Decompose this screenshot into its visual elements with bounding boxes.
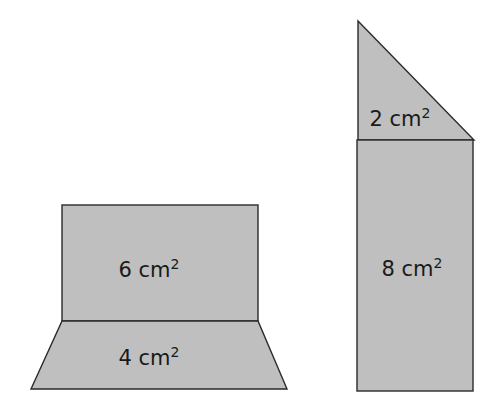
right-rectangle-area-label: 8 cm2 bbox=[382, 255, 443, 281]
area-diagram: 6 cm2 4 cm2 2 cm2 8 cm2 bbox=[0, 0, 489, 417]
right-triangle-area-label: 2 cm2 bbox=[370, 105, 431, 131]
left-trapezoid-area-label: 4 cm2 bbox=[119, 344, 180, 370]
right-composite-shape: 2 cm2 8 cm2 bbox=[357, 21, 474, 391]
left-rectangle-area-label: 6 cm2 bbox=[119, 256, 180, 282]
left-composite-shape: 6 cm2 4 cm2 bbox=[31, 205, 287, 389]
